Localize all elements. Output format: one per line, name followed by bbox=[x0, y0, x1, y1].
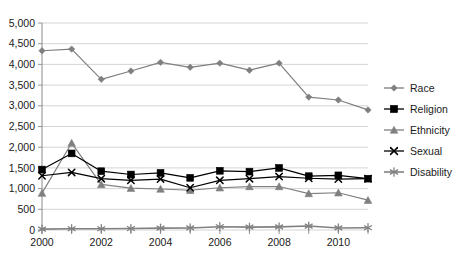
series-disability bbox=[39, 222, 372, 233]
marker-diamond bbox=[246, 67, 252, 73]
chart-canvas: 05001,0001,5002,0002,5003,0003,5004,0004… bbox=[0, 0, 466, 263]
series-line bbox=[42, 143, 368, 200]
marker-square bbox=[246, 168, 253, 175]
x-axis-tick-label: 2010 bbox=[327, 236, 351, 248]
legend-item-religion: Religion bbox=[384, 103, 448, 115]
legend-item-race: Race bbox=[384, 82, 435, 94]
legend-label: Religion bbox=[410, 103, 448, 115]
x-axis-tick-label: 2008 bbox=[267, 236, 291, 248]
marker-diamond bbox=[391, 85, 397, 91]
marker-square bbox=[128, 171, 135, 178]
marker-diamond bbox=[335, 97, 341, 103]
marker-square bbox=[157, 169, 164, 176]
series-race bbox=[39, 46, 371, 113]
marker-triangle bbox=[38, 189, 46, 196]
marker-square bbox=[68, 150, 75, 157]
y-axis-tick-label: 3,500 bbox=[9, 79, 35, 91]
y-axis-tick-label: 500 bbox=[17, 203, 35, 215]
marker-diamond bbox=[187, 64, 193, 70]
y-axis-tick-label: 2,500 bbox=[9, 120, 35, 132]
marker-square bbox=[276, 165, 283, 172]
legend-item-ethnicity: Ethnicity bbox=[384, 124, 450, 136]
y-axis-tick-label: 4,500 bbox=[9, 37, 35, 49]
y-axis-tick-label: 2,000 bbox=[9, 141, 35, 153]
series-sexual bbox=[39, 169, 371, 191]
marker-square bbox=[187, 174, 194, 181]
marker-square bbox=[335, 172, 342, 179]
marker-diamond bbox=[39, 48, 45, 54]
marker-diamond bbox=[365, 107, 371, 113]
x-axis-tick-label: 2004 bbox=[149, 236, 173, 248]
marker-diamond bbox=[128, 68, 134, 74]
x-axis-tick-label: 2002 bbox=[90, 236, 114, 248]
legend-label: Disability bbox=[410, 166, 453, 178]
marker-square bbox=[390, 105, 397, 112]
marker-square bbox=[365, 175, 372, 182]
hate-crime-line-chart: 05001,0001,5002,0002,5003,0003,5004,0004… bbox=[0, 0, 466, 263]
marker-triangle bbox=[68, 139, 76, 146]
x-axis-tick-label: 2000 bbox=[30, 236, 54, 248]
legend-label: Sexual bbox=[410, 145, 442, 157]
y-axis-tick-label: 5,000 bbox=[9, 17, 35, 29]
marker-square bbox=[305, 173, 312, 180]
marker-square bbox=[39, 166, 46, 173]
y-axis-tick-label: 1,500 bbox=[9, 162, 35, 174]
x-axis-tick-label: 2006 bbox=[208, 236, 232, 248]
y-axis-tick-label: 1,000 bbox=[9, 182, 35, 194]
series-line bbox=[42, 49, 368, 110]
y-axis-tick-label: 4,000 bbox=[9, 58, 35, 70]
series-ethnicity bbox=[38, 139, 372, 203]
marker-square bbox=[98, 168, 105, 175]
marker-square bbox=[216, 167, 223, 174]
legend-label: Race bbox=[410, 82, 435, 94]
legend-item-disability: Disability bbox=[384, 166, 453, 178]
y-axis-tick-label: 3,000 bbox=[9, 99, 35, 111]
figure-caption bbox=[0, 254, 466, 263]
legend-item-sexual: Sexual bbox=[384, 145, 442, 157]
legend-label: Ethnicity bbox=[410, 124, 450, 136]
y-axis-tick-label: 0 bbox=[29, 224, 35, 236]
series-line bbox=[42, 153, 368, 178]
marker-diamond bbox=[217, 60, 223, 66]
series-line bbox=[42, 226, 368, 229]
